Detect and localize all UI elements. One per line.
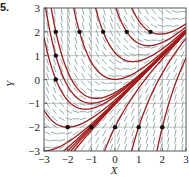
initial-point [54,53,58,57]
x-tick-label: 2 [160,153,166,165]
initial-point [77,30,81,34]
initial-point [54,30,58,34]
y-tick-label: −2 [28,121,40,133]
plot-area [44,0,186,178]
y-tick-label: −3 [28,145,40,157]
direction-field-figure: 5. −3−2−10123−3−2−10123 X Y [0,0,189,178]
initial-point [113,125,117,129]
figure-number: 5. [0,1,9,13]
initial-point [125,30,129,34]
initial-point [89,125,93,129]
x-tick-label: 1 [136,153,142,165]
x-tick-label: −2 [62,153,74,165]
initial-point [148,30,152,34]
y-tick-label: −1 [28,97,40,109]
initial-point [65,125,69,129]
x-tick-label: 3 [183,153,189,165]
x-axis-label: X [110,164,119,176]
initial-point [136,125,140,129]
y-tick-label: 2 [35,26,41,38]
y-tick-label: 0 [35,74,41,86]
initial-point [101,30,105,34]
initial-point [160,125,164,129]
y-axis-label: Y [4,79,16,87]
x-tick-label: −1 [85,153,97,165]
initial-point [54,77,58,81]
y-tick-label: 3 [35,2,41,14]
y-tick-label: 1 [35,50,41,62]
